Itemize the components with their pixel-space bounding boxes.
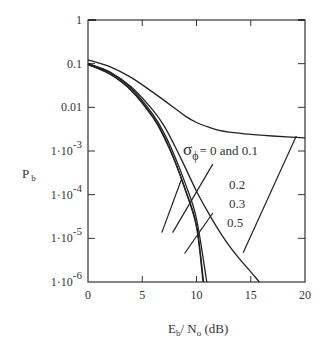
y-tick-label-base: 1·10 [51,275,73,289]
y-tick-label-exp: -3 [73,138,83,150]
y-tick-label: 1·10-6 [51,269,83,289]
series-line-sigma-phi-0-2 [88,64,207,282]
series-line-sigma-phi-0-3 [88,64,259,282]
x-tick-label: 10 [191,288,203,302]
y-tick-label: 1·10-4 [51,182,83,202]
chart: 05101520 10.10.011·10-31·10-41·10-51·10-… [0,0,334,347]
y-axis-title-main: P [22,166,29,181]
y-axis-title-sub: b [31,173,36,183]
y-tick-label-base: 1·10 [51,188,73,202]
annotation-leader-line [162,180,182,233]
annotation-leader-line [185,213,213,253]
y-tick-label: 0.01 [61,100,82,114]
x-tick-label: 20 [299,288,311,302]
x-axis-title: Eb/ No (dB) [168,321,228,338]
y-tick-label-exp: -5 [73,225,83,237]
sigma-value-text: = 0 and 0.1 [200,143,259,158]
y-tick-label-exp: -6 [73,269,83,281]
y-tick-label-exp: -4 [73,182,83,194]
y-axis-title: Pb [22,166,36,183]
sigma-subscript: ϕ [192,149,198,163]
x-axis-title-mid: / N [180,321,197,336]
annotation-label-sigma: σϕ= 0 and 0.1 [183,140,258,163]
sigma-symbol: σ [183,140,192,159]
series-line-sigma-phi-0-5 [88,60,305,138]
series-line-sigma-phi-0 [88,65,203,282]
x-tick-label: 15 [245,288,257,302]
annotation-label: 0.5 [227,215,243,230]
x-tick-label: 0 [85,288,91,302]
series-line-sigma-phi-0-1 [88,64,204,282]
y-tick-label: 1 [76,13,82,27]
x-axis-title-main1: E [168,321,176,336]
annotation-label: 0.3 [229,196,245,211]
y-tick-label: 1·10-3 [51,138,83,158]
x-tick-label: 5 [139,288,145,302]
y-tick-label: 1·10-5 [51,225,83,245]
annotations-group: σϕ= 0 and 0.10.20.30.5 [162,136,297,253]
x-axis-title-tail: (dB) [201,321,228,336]
annotation-label: 0.2 [229,177,245,192]
series-group [88,60,305,282]
y-tick-label: 0.1 [67,57,82,71]
y-tick-label-base: 1·10 [51,144,73,158]
y-tick-label-base: 1·10 [51,231,73,245]
